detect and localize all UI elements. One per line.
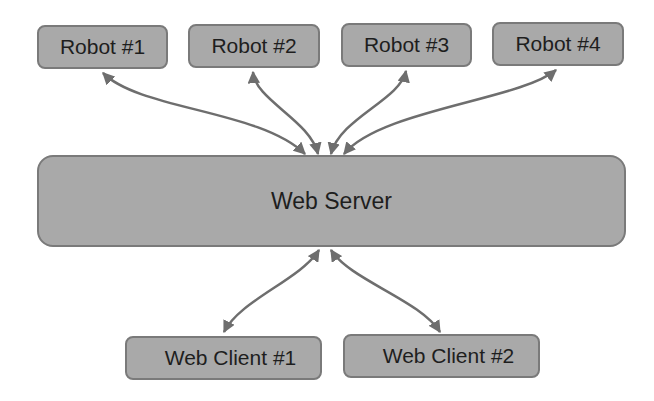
- arrow-robot-3-server: [331, 71, 406, 154]
- arrow-robot-2-server: [253, 72, 318, 154]
- robot-3-label: Robot #3: [364, 33, 449, 57]
- robot-1-node: Robot #1: [37, 25, 168, 69]
- robot-2-node: Robot #2: [188, 24, 320, 68]
- web-server-node: Web Server: [37, 155, 626, 247]
- web-client-1-label: Web Client #1: [151, 346, 297, 370]
- robot-1-label: Robot #1: [60, 35, 145, 59]
- robot-2-label: Robot #2: [211, 34, 296, 58]
- robot-4-node: Robot #4: [492, 22, 624, 66]
- web-client-2-label: Web Client #2: [369, 344, 515, 368]
- arrow-client-1-server: [224, 250, 319, 332]
- web-client-2-node: Web Client #2: [343, 334, 540, 378]
- arrow-robot-4-server: [344, 70, 556, 154]
- arrow-robot-1-server: [103, 73, 305, 154]
- arrow-client-2-server: [331, 250, 440, 332]
- web-server-label: Web Server: [271, 188, 392, 215]
- robot-4-label: Robot #4: [515, 32, 600, 56]
- robot-3-node: Robot #3: [341, 23, 472, 67]
- web-client-1-node: Web Client #1: [125, 336, 322, 380]
